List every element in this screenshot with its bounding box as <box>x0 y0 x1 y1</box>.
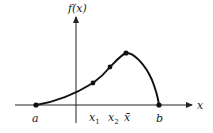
function-curve <box>36 53 159 105</box>
point-a <box>33 102 38 107</box>
x-axis-label: x <box>197 99 204 112</box>
label-xbar: x̄ <box>124 111 131 124</box>
point-x2 <box>108 65 113 70</box>
function-diagram: f(x) x a x1 x2 x̄ b <box>0 0 213 133</box>
label-a: a <box>32 112 39 125</box>
label-b: b <box>156 112 163 125</box>
label-x1: x1 <box>89 111 100 126</box>
point-b <box>156 102 161 107</box>
label-x2: x2 <box>108 111 119 126</box>
point-xbar <box>123 50 128 55</box>
y-axis-label: f(x) <box>67 2 87 15</box>
point-x1 <box>91 81 96 86</box>
